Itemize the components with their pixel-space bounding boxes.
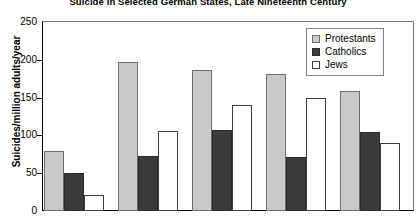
bar-jews xyxy=(158,131,178,211)
y-tick-label: 50 xyxy=(0,168,37,178)
bar-protestants xyxy=(192,70,212,211)
y-tick-label: 200 xyxy=(0,55,37,65)
legend-item-protestants: Protestants xyxy=(312,32,376,45)
bar-protestants xyxy=(118,62,138,211)
bar-catholics xyxy=(138,156,158,211)
bar-jews xyxy=(84,195,104,211)
bar-group xyxy=(191,22,265,211)
bar-catholics xyxy=(360,132,380,211)
y-tick-label: 150 xyxy=(0,93,37,103)
bar-jews xyxy=(380,143,400,211)
legend-swatch-icon xyxy=(312,61,320,69)
bar-group xyxy=(117,22,191,211)
bar-group xyxy=(43,22,117,211)
legend-item-catholics: Catholics xyxy=(312,45,376,58)
legend-item-label: Jews xyxy=(325,59,348,70)
y-tick-label: 100 xyxy=(0,130,37,140)
bar-protestants xyxy=(340,91,360,211)
bar-catholics xyxy=(212,130,232,211)
bar-protestants xyxy=(44,151,64,211)
legend-item-jews: Jews xyxy=(312,58,376,71)
legend-item-label: Catholics xyxy=(325,46,366,57)
bar-chart: Suicide in Selected German States, Late … xyxy=(0,0,416,221)
legend-swatch-icon xyxy=(312,35,320,43)
bar-jews xyxy=(232,105,252,211)
bar-jews xyxy=(306,98,326,211)
y-tick-label: 250 xyxy=(0,17,37,27)
bar-protestants xyxy=(266,74,286,211)
chart-legend: Protestants Catholics Jews xyxy=(306,28,384,76)
legend-item-label: Protestants xyxy=(325,33,376,44)
chart-title: Suicide in Selected German States, Late … xyxy=(0,0,416,7)
legend-swatch-icon xyxy=(312,48,320,56)
y-tick-label: 0 xyxy=(0,206,37,216)
bar-catholics xyxy=(64,173,84,211)
bar-catholics xyxy=(286,157,306,211)
